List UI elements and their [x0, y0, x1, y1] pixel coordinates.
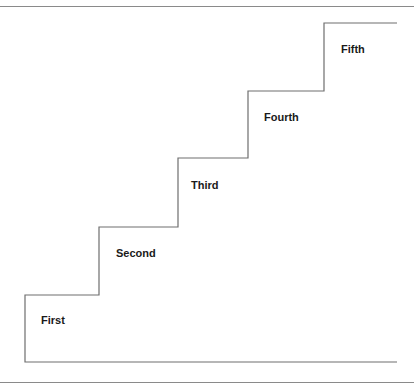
staircase-outline: [0, 0, 414, 384]
step-label-fifth: Fifth: [341, 43, 365, 55]
step-label-fourth: Fourth: [264, 111, 299, 123]
staircase-path: [25, 23, 397, 362]
step-label-second: Second: [116, 247, 156, 259]
step-label-first: First: [41, 314, 65, 326]
step-label-third: Third: [191, 179, 219, 191]
